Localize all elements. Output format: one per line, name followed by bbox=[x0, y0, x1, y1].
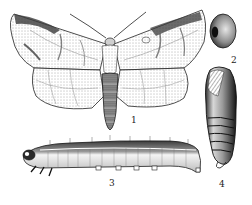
moth-thorax bbox=[102, 45, 118, 74]
adult-moth bbox=[10, 10, 205, 130]
label-egg: 2 bbox=[231, 56, 237, 65]
pupa bbox=[206, 67, 237, 168]
label-larva: 3 bbox=[109, 179, 115, 188]
label-pupa: 4 bbox=[219, 180, 225, 189]
larva-head bbox=[23, 150, 35, 160]
illustration-plate bbox=[0, 0, 252, 205]
egg-micropyle bbox=[212, 27, 218, 38]
larva bbox=[23, 135, 201, 176]
egg bbox=[210, 14, 236, 48]
right-hindwing bbox=[116, 68, 188, 107]
label-adult: 1 bbox=[131, 116, 137, 125]
moth-abdomen bbox=[102, 73, 118, 130]
